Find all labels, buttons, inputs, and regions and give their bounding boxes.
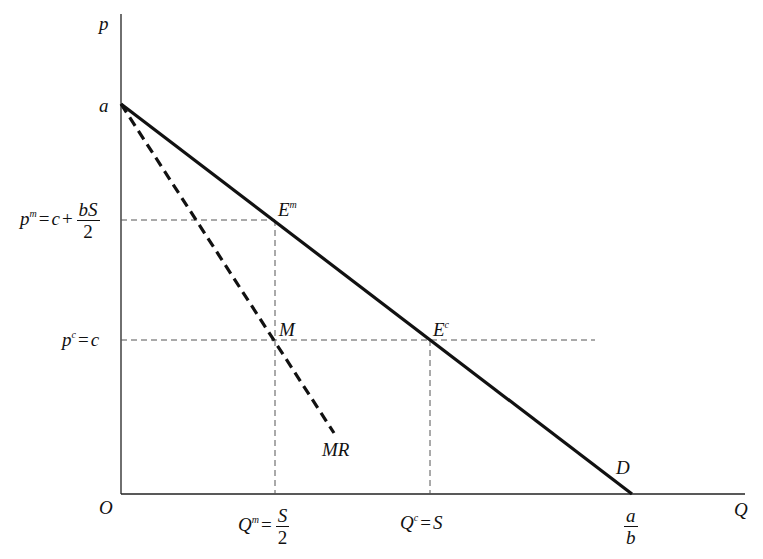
monopoly-quantity-label: Qm=S2 (238, 506, 289, 547)
y-intercept-label: a (99, 96, 109, 115)
diagram-canvas (0, 0, 763, 559)
demand-intercept-label: ab (622, 506, 638, 547)
demand-curve (121, 104, 632, 494)
mr-curve-label: MR (322, 440, 349, 459)
mr-point-label: M (279, 320, 295, 339)
origin-label: O (99, 498, 113, 517)
competitive-quantity-label: Qc=S (400, 513, 442, 532)
competitive-equilibrium-label: Ec (433, 320, 449, 339)
demand-curve-label: D (616, 458, 630, 477)
monopoly-equilibrium-label: Em (278, 200, 297, 219)
marginal-revenue-curve (121, 104, 334, 433)
competitive-price-label: pc=c (62, 330, 99, 349)
monopoly-price-label: pm=c+bS2 (20, 200, 100, 241)
y-axis-label: p (99, 14, 109, 33)
x-axis-label: Q (734, 500, 748, 519)
